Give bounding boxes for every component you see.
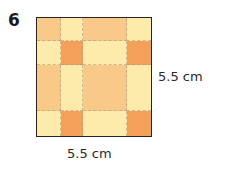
- side-length-label-bottom: 5.5 cm: [67, 147, 112, 160]
- tile-r3-c2: [83, 111, 127, 136]
- tile-r2-c2: [83, 65, 127, 111]
- tiled-square-figure: [36, 17, 152, 137]
- tile-r3-c1: [61, 111, 84, 136]
- tile-r1-c2: [83, 41, 127, 66]
- tile-r2-c1: [61, 65, 84, 111]
- tile-r0-c1: [61, 18, 84, 41]
- tile-r0-c2: [83, 18, 127, 41]
- tile-r2-c3: [127, 65, 151, 111]
- tile-r0-c3: [127, 18, 151, 41]
- tile-r1-c1: [61, 41, 84, 66]
- problem-number: 6: [8, 12, 20, 29]
- tile-r2-c0: [37, 65, 61, 111]
- tile-r3-c0: [37, 111, 61, 136]
- side-length-label-right: 5.5 cm: [158, 70, 203, 83]
- tile-r0-c0: [37, 18, 61, 41]
- tile-r1-c0: [37, 41, 61, 66]
- tile-r1-c3: [127, 41, 151, 66]
- tile-r3-c3: [127, 111, 151, 136]
